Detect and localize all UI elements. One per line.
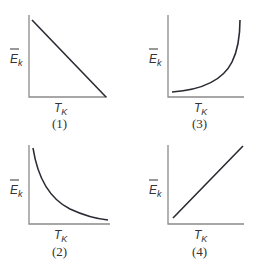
panel-2-caption: (2): [52, 244, 67, 259]
panel-1-axes: [29, 15, 107, 97]
panel-1-caption: (1): [52, 116, 67, 131]
panel-2: Ek TK (2): [10, 145, 110, 259]
panel-3-curve: [172, 20, 240, 92]
panel-1-curve: [32, 20, 106, 97]
panel-4-xlabel: TK: [194, 228, 208, 244]
panel-4-caption: (4): [192, 244, 207, 259]
panel-3-ylabel: Ek: [149, 52, 162, 68]
panel-2-curve: [33, 148, 108, 220]
panel-3-xlabel: TK: [194, 101, 208, 117]
panel-3: Ek TK (3): [149, 15, 244, 131]
panel-2-ylabel: Ek: [10, 183, 23, 199]
panel-1: Ek TK (1): [10, 15, 107, 131]
panel-2-xlabel: TK: [54, 228, 68, 244]
graphs-figure: Ek TK (1) Ek TK (3) Ek TK (2) Ek TK (4): [0, 0, 256, 268]
panel-4: Ek TK (4): [149, 145, 244, 259]
panel-1-ylabel: Ek: [10, 52, 23, 68]
panel-1-xlabel: TK: [54, 101, 68, 117]
panel-3-caption: (3): [192, 116, 207, 131]
panel-4-curve: [173, 146, 243, 218]
panel-4-ylabel: Ek: [149, 183, 162, 199]
panel-2-axes: [29, 145, 110, 224]
